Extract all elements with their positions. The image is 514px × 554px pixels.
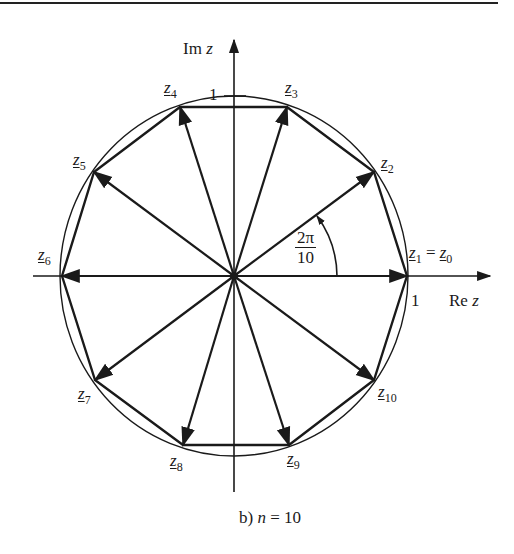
z7-sub: 7 [85, 393, 91, 407]
vector-z7 [95, 276, 234, 380]
z6-sub: 6 [45, 254, 51, 268]
z8-sub: 8 [177, 460, 183, 474]
point-label-z2: z2 [381, 154, 394, 171]
roots-of-unity-diagram [0, 0, 514, 554]
caption-var: n [257, 508, 266, 527]
point-label-z6: z6 [38, 246, 51, 263]
z3-name: z [285, 78, 292, 97]
vector-z3 [234, 107, 287, 276]
imag-unit-label: 1 [209, 86, 218, 103]
z6-name: z [38, 245, 45, 264]
imag-axis-label: Im z [183, 40, 213, 57]
caption-eq: = 10 [266, 508, 301, 527]
vector-z9 [234, 276, 289, 445]
angle-denominator: 10 [295, 248, 316, 266]
z7-name: z [78, 384, 85, 403]
z9-sub: 9 [294, 458, 300, 472]
point-label-z9: z9 [287, 450, 300, 467]
imag-label-text: Im [183, 39, 202, 58]
z2-sub: 2 [388, 162, 394, 176]
z9-name: z [287, 449, 294, 468]
real-unit-label: 1 [411, 292, 420, 309]
angle-numerator: 2π [295, 229, 316, 248]
vector-z8 [183, 276, 234, 445]
point-label-z10: z10 [378, 383, 397, 400]
z2-name: z [381, 153, 388, 172]
z4-sub: 4 [171, 87, 177, 101]
imag-label-var: z [206, 39, 213, 58]
z1-equals: = [422, 243, 440, 262]
z5-sub: 5 [80, 159, 86, 173]
vector-z4 [180, 107, 234, 276]
point-label-z4: z4 [164, 79, 177, 96]
point-label-z3: z3 [285, 79, 298, 96]
angle-label: 2π 10 [295, 229, 316, 266]
point-label-z8: z8 [170, 452, 183, 469]
vector-z10 [234, 276, 374, 380]
real-label-var: z [472, 291, 479, 310]
real-axis-label: Re z [449, 292, 479, 309]
angle-arc [317, 216, 337, 276]
z4-name: z [164, 78, 171, 97]
real-label-text: Re [449, 291, 468, 310]
figure-caption: b) n = 10 [0, 508, 514, 528]
z5-name: z [73, 150, 80, 169]
z1-name: z [409, 243, 416, 262]
z1-sub: 1 [416, 252, 422, 266]
z0-sub: 0 [446, 252, 452, 266]
z8-name: z [170, 451, 177, 470]
z10-sub: 10 [385, 391, 397, 405]
origin-dot [230, 272, 238, 280]
vector-z5 [94, 172, 234, 276]
caption-prefix: b) [239, 508, 253, 527]
point-label-z7: z7 [78, 385, 91, 402]
z10-name: z [378, 382, 385, 401]
point-label-z5: z5 [73, 151, 86, 168]
z3-sub: 3 [292, 87, 298, 101]
point-label-z1: z1 = z0 [409, 244, 452, 261]
